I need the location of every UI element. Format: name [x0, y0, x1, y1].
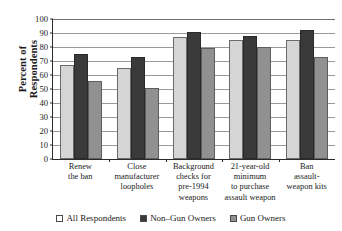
x-axis-category-label-line: pre-1994 — [166, 182, 221, 192]
bar-chart-figure: Percent of Respondents 10090807060504030… — [0, 0, 342, 231]
x-axis-category-label-line: Renew — [53, 162, 108, 172]
x-axis-category-label-line: 21-year-old — [223, 162, 278, 172]
legend-item-gun-owners: Gun Owners — [230, 213, 286, 223]
x-axis-category-label-line: Close — [110, 162, 165, 172]
x-axis-category-label-line: to purchase — [223, 182, 278, 192]
legend-label-all-respondents: All Respondents — [66, 213, 126, 223]
legend-swatch-all-respondents — [56, 215, 63, 222]
bar[interactable] — [173, 37, 187, 159]
bar[interactable] — [131, 57, 145, 159]
x-axis-category-label-line: loopholes — [110, 182, 165, 192]
bar[interactable] — [243, 36, 257, 159]
x-axis-category-label-line: manufacturer — [110, 172, 165, 182]
bar[interactable] — [286, 40, 300, 159]
bar[interactable] — [187, 32, 201, 159]
legend-item-all-respondents: All Respondents — [56, 213, 126, 223]
bar[interactable] — [74, 54, 88, 159]
x-axis-category-label: Renewthe ban — [52, 162, 109, 208]
bar[interactable] — [300, 30, 314, 159]
bar-group — [222, 19, 278, 159]
x-axis-category-label: Banassault-weapon kits — [278, 162, 335, 208]
legend-item-non-gun-owners: Non–Gun Owners — [140, 213, 216, 223]
bar-groups — [53, 19, 335, 159]
bar[interactable] — [60, 65, 74, 159]
x-axis-labels: Renewthe banClosemanufacturerloopholesBa… — [52, 162, 335, 208]
plot-area: 1009080706050403020100 — [52, 19, 335, 160]
bar-group — [166, 19, 222, 159]
y-axis-title-line-2: Respondents — [28, 40, 39, 98]
x-axis-category-label-line: checks for — [166, 172, 221, 182]
bar[interactable] — [201, 48, 215, 159]
bar[interactable] — [314, 57, 328, 159]
bar-group — [53, 19, 109, 159]
x-axis-category-label-line: assault weapon — [223, 193, 278, 203]
legend-swatch-non-gun-owners — [140, 215, 147, 222]
x-axis-category-label-line: weapon kits — [279, 182, 334, 192]
x-axis-category-label-line: minimum — [223, 172, 278, 182]
x-axis-category-label-line: the ban — [53, 172, 108, 182]
x-axis-category-label: Backgroundchecks forpre-1994weapons — [165, 162, 222, 208]
x-axis-category-label-line: weapons — [166, 193, 221, 203]
y-axis-title-line-1: Percent of — [17, 46, 28, 93]
legend-label-gun-owners: Gun Owners — [240, 213, 286, 223]
bar[interactable] — [145, 88, 159, 159]
x-axis-category-label-line: Background — [166, 162, 221, 172]
x-axis-category-label: Closemanufacturerloopholes — [109, 162, 166, 208]
chart-legend: All Respondents Non–Gun Owners Gun Owner… — [0, 213, 342, 223]
bar-group — [279, 19, 335, 159]
x-axis-category-label-line: assault- — [279, 172, 334, 182]
bar-group — [109, 19, 165, 159]
bar[interactable] — [257, 47, 271, 159]
x-axis-category-label-line: Ban — [279, 162, 334, 172]
x-axis-category-label: 21-year-oldminimumto purchaseassault wea… — [222, 162, 279, 208]
legend-swatch-gun-owners — [230, 215, 237, 222]
bar[interactable] — [88, 81, 102, 159]
bar[interactable] — [117, 68, 131, 159]
bar[interactable] — [229, 40, 243, 159]
legend-label-non-gun-owners: Non–Gun Owners — [150, 213, 216, 223]
